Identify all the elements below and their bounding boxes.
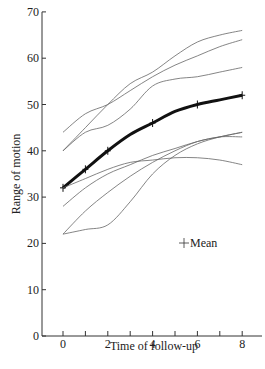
y-tick-label: 60 (27, 51, 39, 65)
y-tick-label: 10 (27, 283, 39, 297)
y-tick-label: 50 (27, 98, 39, 112)
axes: 01020304050607002468 (27, 5, 262, 351)
y-tick-label: 0 (33, 329, 39, 343)
x-axis-label: Time of follow-up (110, 339, 198, 353)
series-lines (60, 30, 245, 234)
subject-line (63, 132, 242, 234)
subject-line (63, 137, 242, 207)
y-tick-label: 30 (27, 190, 39, 204)
y-axis-label: Range of motion (9, 134, 23, 215)
x-tick-label: 8 (239, 337, 245, 351)
x-tick-label: 0 (60, 337, 66, 351)
y-tick-label: 40 (27, 144, 39, 158)
y-tick-label: 70 (27, 5, 39, 19)
subject-line (63, 132, 242, 234)
legend-label: Mean (190, 236, 217, 250)
line-chart: 01020304050607002468 Mean Time of follow… (0, 0, 265, 369)
legend: Mean (179, 236, 217, 250)
y-tick-label: 20 (27, 236, 39, 250)
